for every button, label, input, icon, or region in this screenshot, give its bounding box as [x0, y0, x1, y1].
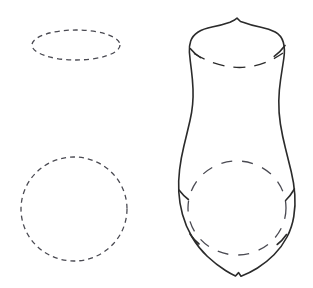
figure-root [0, 0, 313, 288]
vessel-line-drawing-svg [0, 0, 313, 288]
drawing-background [0, 0, 313, 288]
